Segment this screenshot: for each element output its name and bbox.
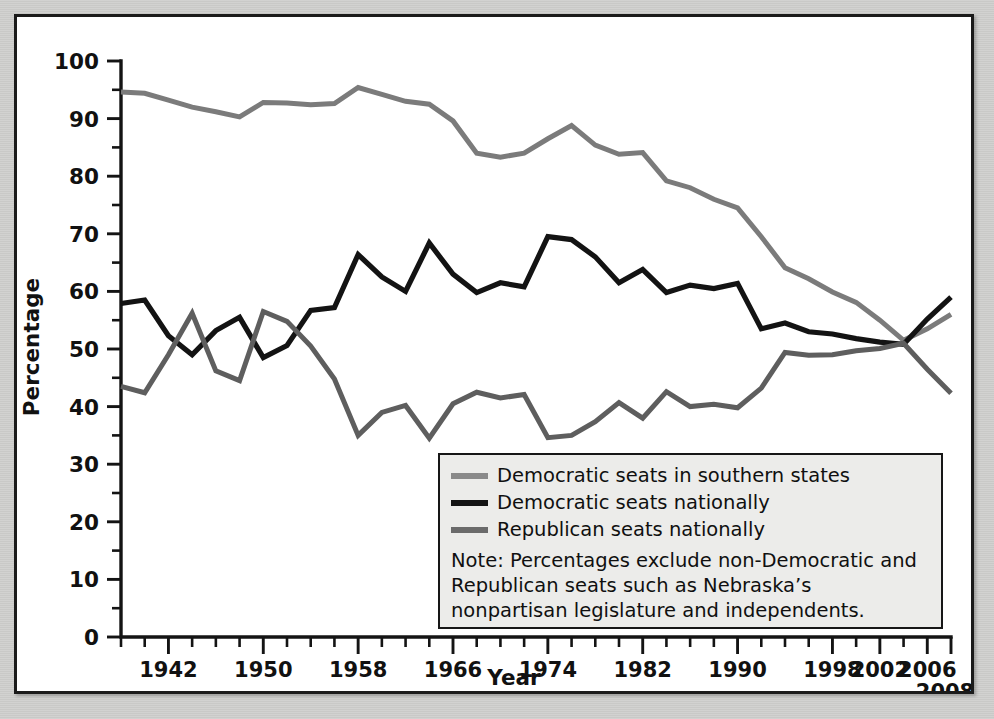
legend-swatch-dem-south <box>451 473 488 479</box>
legend-swatch-dem-nat <box>451 500 488 506</box>
x-tick-label: 1942 <box>139 658 197 682</box>
y-tick-label: 80 <box>69 164 99 189</box>
legend-label-rep-nat: Republican seats nationally <box>497 518 765 541</box>
y-tick-label: 0 <box>84 625 99 650</box>
chart-legend: Democratic seats in southern states Demo… <box>438 453 943 629</box>
y-tick-label: 100 <box>54 49 99 74</box>
legend-item: Republican seats nationally <box>451 516 930 543</box>
y-axis-tick-labels: 0102030405060708090100 <box>54 49 99 650</box>
y-tick-label: 50 <box>69 337 99 362</box>
legend-label-dem-south: Democratic seats in southern states <box>497 464 850 487</box>
chart-frame: 0102030405060708090100 19421950195819661… <box>14 14 974 694</box>
x-tick-label: 1958 <box>329 658 387 682</box>
y-axis-title: Percentage <box>19 278 44 416</box>
y-tick-label: 40 <box>69 395 99 420</box>
x-tick-label: 1950 <box>234 658 292 682</box>
series-line-1 <box>121 237 951 358</box>
y-tick-label: 70 <box>69 222 99 247</box>
x-tick-label: 2006 <box>898 658 956 682</box>
x-tick-label: 2008 <box>916 680 971 691</box>
legend-swatch-rep-nat <box>451 527 488 533</box>
legend-item: Democratic seats nationally <box>451 489 930 516</box>
data-series-group <box>121 88 951 439</box>
x-axis-tick-labels: 1942195019581966197419821990199820022006… <box>139 658 971 691</box>
legend-item: Democratic seats in southern states <box>451 462 930 489</box>
legend-note: Note: Percentages exclude non-Democratic… <box>451 548 930 623</box>
x-tick-label: 1990 <box>708 658 766 682</box>
series-line-0 <box>121 88 951 341</box>
figure-root: 0102030405060708090100 19421950195819661… <box>0 0 994 719</box>
y-tick-label: 10 <box>69 567 99 592</box>
y-tick-label: 90 <box>69 107 99 132</box>
x-tick-label: 1982 <box>613 658 671 682</box>
y-tick-label: 20 <box>69 510 99 535</box>
x-axis-title: Year <box>486 665 541 690</box>
y-tick-label: 30 <box>69 452 99 477</box>
x-tick-label: 1966 <box>424 658 482 682</box>
y-tick-label: 60 <box>69 279 99 304</box>
legend-label-dem-nat: Democratic seats nationally <box>497 491 770 514</box>
